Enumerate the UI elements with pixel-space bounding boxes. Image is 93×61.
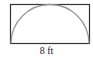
base-length-label: 8 ft	[0, 45, 93, 56]
rectangle	[11, 5, 90, 44]
semicircle-arc	[11, 4, 89, 43]
